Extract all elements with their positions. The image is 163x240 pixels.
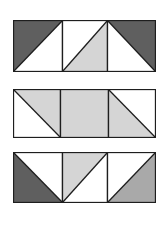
tile-1 [14, 21, 63, 72]
tile-3 [108, 153, 156, 203]
row-1 [13, 20, 156, 72]
row-2 [13, 89, 156, 138]
tile-2 [63, 21, 108, 72]
tile-2 [63, 153, 108, 203]
shaded-triangle [61, 90, 109, 138]
tile-1 [14, 90, 61, 138]
tile-3 [109, 90, 156, 138]
tile-3 [108, 21, 156, 72]
tile-2 [61, 90, 109, 138]
tile-1 [14, 153, 63, 203]
row-3 [13, 152, 156, 203]
